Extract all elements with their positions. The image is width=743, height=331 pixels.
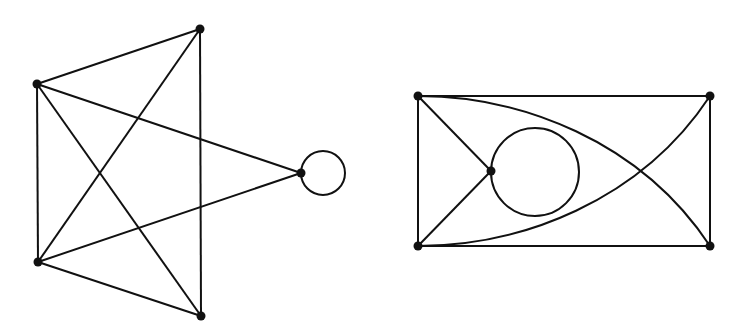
vertex-br bbox=[706, 242, 715, 251]
edge-b-a bbox=[37, 29, 200, 84]
loop-m bbox=[491, 128, 579, 216]
vertex-tl bbox=[414, 92, 423, 101]
curved-edge-tl-br bbox=[418, 96, 710, 246]
right-graph bbox=[414, 92, 715, 251]
loop-e bbox=[301, 151, 345, 195]
edge-b-e bbox=[37, 84, 301, 173]
vertex-a bbox=[196, 25, 205, 34]
vertex-bl bbox=[414, 242, 423, 251]
edge-bl-m bbox=[418, 171, 491, 246]
curved-edge-bl-tr bbox=[418, 96, 710, 246]
edge-a-c bbox=[38, 29, 200, 262]
diagram-canvas bbox=[0, 0, 743, 331]
edge-c-e bbox=[38, 173, 301, 262]
edge-b-c bbox=[37, 84, 38, 262]
vertex-c bbox=[34, 258, 43, 267]
vertex-b bbox=[33, 80, 42, 89]
vertex-m bbox=[487, 167, 496, 176]
left-graph bbox=[33, 25, 346, 321]
edge-c-d bbox=[38, 262, 201, 316]
vertex-e bbox=[297, 169, 306, 178]
vertex-d bbox=[197, 312, 206, 321]
edge-b-d bbox=[37, 84, 201, 316]
edge-tl-m bbox=[418, 96, 491, 171]
edge-a-d bbox=[200, 29, 201, 316]
vertex-tr bbox=[706, 92, 715, 101]
